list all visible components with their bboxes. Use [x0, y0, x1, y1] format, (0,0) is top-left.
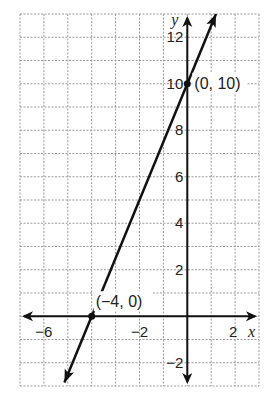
y-tick-label: 12	[167, 28, 184, 45]
x-axis-label: x	[247, 323, 255, 340]
x-tick-label: −6	[35, 323, 52, 340]
x-tick-label: −2	[131, 323, 148, 340]
point-label: (−4, 0)	[96, 293, 143, 310]
y-tick-label: 10	[167, 75, 184, 92]
y-axis-label: y	[169, 11, 179, 29]
x-tick-label: 2	[229, 323, 237, 340]
y-tick-label: 8	[175, 121, 183, 138]
y-tick-label: 4	[175, 214, 183, 231]
y-tick-label: −2	[166, 354, 183, 371]
y-tick-label: 2	[175, 261, 183, 278]
point-marker	[88, 313, 95, 320]
y-tick-label: 6	[175, 168, 183, 185]
point-marker	[184, 80, 191, 87]
point-label: (0, 10)	[194, 75, 240, 92]
coordinate-graph: xy−6−2212108642−2 (−4, 0)(0, 10)	[0, 0, 277, 396]
point-annotations: (−4, 0)(0, 10)	[88, 73, 246, 320]
